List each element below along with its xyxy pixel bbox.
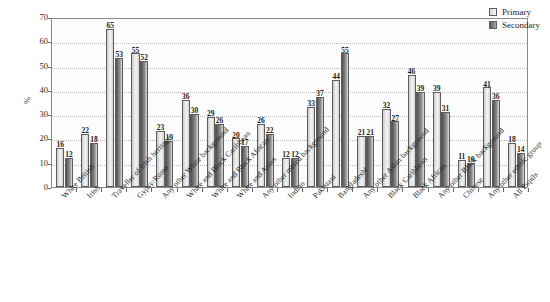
bar-value-label: 32 <box>383 102 391 110</box>
bar-group: 2319 <box>156 19 173 187</box>
bar-primary[interactable]: 16 <box>56 148 64 187</box>
bar-value-label: 65 <box>107 22 115 30</box>
bar-value-label: 27 <box>392 115 400 123</box>
bar-primary[interactable]: 44 <box>332 80 340 187</box>
bar-value-label: 55 <box>341 47 349 55</box>
bar-value-label: 29 <box>207 110 215 118</box>
bar-secondary[interactable]: 31 <box>441 112 449 187</box>
bar-value-label: 12 <box>65 151 73 159</box>
bar-value-label: 16 <box>56 141 64 149</box>
bar-value-label: 36 <box>492 93 500 101</box>
bar-value-label: 22 <box>266 127 274 135</box>
bar-secondary[interactable]: 53 <box>115 58 123 187</box>
bar-value-label: 37 <box>316 90 324 98</box>
bar-value-label: 46 <box>408 68 416 76</box>
bar-value-label: 26 <box>216 117 224 125</box>
bar-chart: % 010203040506070 1612221865535552231936… <box>0 0 550 302</box>
y-axis-tick-labels: 010203040506070 <box>24 0 48 302</box>
bar-value-label: 53 <box>115 51 123 59</box>
y-tick-mark <box>48 139 51 140</box>
bar-value-label: 18 <box>90 136 98 144</box>
bar-value-label: 33 <box>307 100 315 108</box>
legend-swatch-primary-icon <box>489 8 497 16</box>
bar-value-label: 31 <box>442 105 450 113</box>
bar-group: 4136 <box>483 19 500 187</box>
legend-item: Secondary <box>489 20 540 30</box>
y-tick-mark <box>48 164 51 165</box>
y-tick-label: 0 <box>28 183 48 192</box>
bar-value-label: 21 <box>358 129 366 137</box>
bar-value-label: 18 <box>508 136 516 144</box>
bar-secondary[interactable]: 55 <box>341 53 349 187</box>
bar-value-label: 30 <box>191 107 199 115</box>
y-tick-mark <box>48 188 51 189</box>
bar-group: 3337 <box>307 19 324 187</box>
y-tick-label: 40 <box>28 86 48 95</box>
y-tick-mark <box>48 115 51 116</box>
bar-value-label: 39 <box>417 85 425 93</box>
bar-value-label: 11 <box>458 153 465 161</box>
bar-value-label: 12 <box>282 151 290 159</box>
y-tick-mark <box>48 42 51 43</box>
bar-value-label: 36 <box>182 93 190 101</box>
y-tick-label: 30 <box>28 110 48 119</box>
bar-value-label: 22 <box>82 127 90 135</box>
y-tick-label: 60 <box>28 37 48 46</box>
bar-value-label: 52 <box>141 54 149 62</box>
bar-value-label: 26 <box>257 117 265 125</box>
legend-swatch-secondary-icon <box>489 21 497 29</box>
legend-label-primary: Primary <box>502 7 531 17</box>
bar-group: 1612 <box>56 19 73 187</box>
bar-value-label: 39 <box>433 85 441 93</box>
y-tick-mark <box>48 18 51 19</box>
y-tick-mark <box>48 91 51 92</box>
legend-item: Primary <box>489 7 540 17</box>
bar-value-label: 55 <box>132 47 140 55</box>
y-tick-mark <box>48 67 51 68</box>
bar-primary[interactable]: 65 <box>106 29 114 187</box>
bar-value-label: 23 <box>157 124 165 132</box>
bar-group: 2121 <box>357 19 374 187</box>
y-tick-label: 10 <box>28 159 48 168</box>
y-tick-label: 50 <box>28 62 48 71</box>
bar-secondary[interactable]: 30 <box>190 114 198 187</box>
legend-label-secondary: Secondary <box>502 20 540 30</box>
bar-value-label: 41 <box>483 81 491 89</box>
bar-value-label: 21 <box>366 129 374 137</box>
chart-legend: Primary Secondary <box>486 5 544 35</box>
bar-value-label: 44 <box>333 73 341 81</box>
bar-group: 6553 <box>106 19 123 187</box>
bar-group: 4455 <box>332 19 349 187</box>
y-tick-label: 70 <box>28 13 48 22</box>
y-tick-label: 20 <box>28 134 48 143</box>
